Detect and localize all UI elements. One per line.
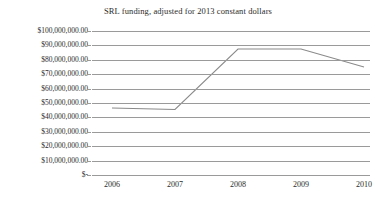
y-axis-tick-label: $70,000,000.00: [0, 70, 88, 78]
series-srl-funding: [112, 49, 364, 109]
y-axis-tick-mark: [87, 31, 91, 32]
x-axis-tick-label: 2010: [344, 180, 376, 190]
y-axis-tick-label: $20,000,000.00: [0, 142, 88, 150]
x-axis-tick-label: 2008: [218, 180, 258, 190]
x-axis-tick-label: 2007: [155, 180, 195, 190]
y-axis-tick-label: $10,000,000.00: [0, 157, 88, 165]
gridline: [92, 74, 370, 75]
y-axis-tick-label: $90,000,000.00: [0, 41, 88, 49]
y-axis-tick-mark: [87, 89, 91, 90]
y-axis: $-$10,000,000.00$20,000,000.00$30,000,00…: [0, 31, 88, 175]
gridline: [92, 146, 370, 147]
gridline: [92, 132, 370, 133]
gridline: [92, 89, 370, 90]
y-axis-tick-mark: [87, 175, 91, 176]
x-axis: 20062007200820092010: [92, 180, 370, 194]
y-axis-tick-label: $-: [0, 171, 88, 179]
y-axis-tick-label: $60,000,000.00: [0, 85, 88, 93]
y-axis-tick-mark: [87, 103, 91, 104]
y-axis-tick-label: $80,000,000.00: [0, 56, 88, 64]
gridline: [92, 117, 370, 118]
gridline: [92, 175, 370, 176]
y-axis-tick-label: $50,000,000.00: [0, 99, 88, 107]
y-axis-tick-mark: [87, 161, 91, 162]
x-axis-tick-label: 2009: [281, 180, 321, 190]
x-axis-tick-label: 2006: [92, 180, 132, 190]
y-axis-tick-label: $40,000,000.00: [0, 113, 88, 121]
y-axis-tick-mark: [87, 132, 91, 133]
chart-container: SRL funding, adjusted for 2013 constant …: [0, 0, 376, 206]
y-axis-tick-label: $100,000,000.00: [0, 27, 88, 35]
y-axis-tick-mark: [87, 74, 91, 75]
gridline: [92, 31, 370, 32]
gridline: [92, 103, 370, 104]
gridline: [92, 45, 370, 46]
gridline: [92, 161, 370, 162]
y-axis-tick-label: $30,000,000.00: [0, 128, 88, 136]
chart-title: SRL funding, adjusted for 2013 constant …: [0, 6, 376, 17]
y-axis-tick-mark: [87, 45, 91, 46]
plot-area: [92, 31, 370, 175]
gridline: [92, 60, 370, 61]
y-axis-tick-mark: [87, 146, 91, 147]
y-axis-tick-mark: [87, 117, 91, 118]
y-axis-tick-mark: [87, 60, 91, 61]
